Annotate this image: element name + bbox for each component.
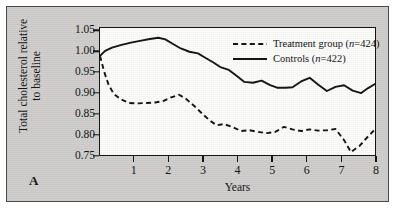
x-axis-tick-mark: [375, 156, 376, 162]
x-axis-tick-label: 3: [200, 164, 206, 176]
legend-label-treatment: Treatment group (n=424): [273, 36, 379, 51]
y-axis-tick-labels: 1.051.000.950.900.850.800.75: [35, 27, 95, 156]
x-axis-tick-marks: [99, 156, 376, 163]
legend-swatch-dashed-icon: [233, 39, 267, 49]
x-axis-tick-label: 1: [131, 164, 137, 176]
x-axis-tick-label: 8: [373, 164, 379, 176]
x-axis-tick-label: 4: [235, 164, 241, 176]
x-axis-tick-mark: [341, 156, 342, 162]
x-axis-tick-mark: [168, 156, 169, 162]
x-axis-tick-mark: [237, 156, 238, 162]
y-axis-title-line1: Total cholesterol relative: [17, 1, 30, 151]
x-axis-title: Years: [99, 181, 376, 193]
chart-legend: Treatment group (n=424) Controls (n=422): [233, 36, 379, 66]
plot-area: Treatment group (n=424) Controls (n=422): [99, 27, 376, 156]
x-axis-tick-label: 7: [338, 164, 344, 176]
x-axis-tick-label: 2: [165, 164, 171, 176]
y-axis-tick-marks: [91, 27, 99, 156]
x-axis-tick-mark: [202, 156, 203, 162]
legend-item-treatment: Treatment group (n=424): [233, 36, 379, 51]
series-line-treatment: [100, 56, 375, 152]
legend-swatch-solid-icon: [233, 54, 267, 64]
y-axis-title: Total cholesterol relative to baseline: [17, 1, 43, 151]
panel-label: A: [29, 173, 39, 189]
x-axis-tick-mark: [271, 156, 272, 162]
figure-panel: 1.051.000.950.900.850.800.75 Treatment g…: [6, 6, 389, 202]
x-axis-tick-mark: [133, 156, 134, 162]
legend-label-controls: Controls (n=422): [273, 51, 346, 66]
x-axis-tick-label: 5: [269, 164, 275, 176]
legend-item-controls: Controls (n=422): [233, 51, 379, 66]
x-axis-tick-mark: [306, 156, 307, 162]
x-axis-tick-labels: 12345678: [99, 164, 376, 180]
y-axis-title-line2: to baseline: [30, 1, 43, 151]
x-axis-tick-label: 6: [304, 164, 310, 176]
